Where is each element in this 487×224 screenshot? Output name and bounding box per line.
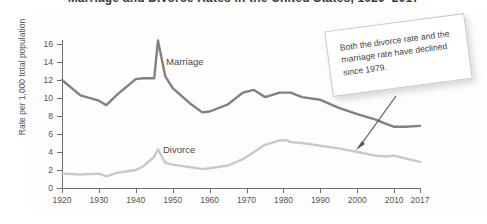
chart-figure: Marriage and Divorce Rates in the United… [0, 0, 487, 224]
